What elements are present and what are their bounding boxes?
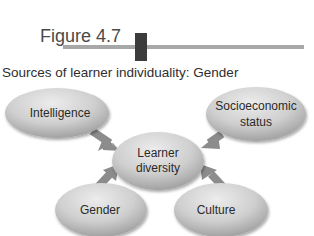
label-culture: Culture xyxy=(197,203,236,217)
label-center-2: diversity xyxy=(136,161,180,175)
label-socioeconomic-2: status xyxy=(240,115,272,129)
arrow-intelligence xyxy=(92,131,121,151)
diagram-canvas: Intelligence Socioeconomic status Learne… xyxy=(0,0,314,236)
title-rule xyxy=(63,45,304,49)
figure-subtitle: Sources of learner individuality: Gender xyxy=(2,65,238,80)
label-socioeconomic-1: Socioeconomic xyxy=(215,99,296,113)
label-center-1: Learner xyxy=(137,146,178,160)
label-intelligence: Intelligence xyxy=(30,106,91,120)
title-marker xyxy=(135,33,147,61)
label-gender: Gender xyxy=(80,203,120,217)
arrow-socioeconomic xyxy=(201,134,222,149)
node-socioeconomic xyxy=(206,87,306,141)
